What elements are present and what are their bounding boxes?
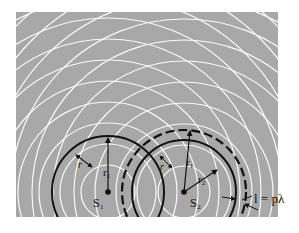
interference-diagram: r₁ S₁ r r₁ r₂ S₂ r l = pλ [0, 0, 299, 233]
s2-label: S₂ [190, 196, 201, 210]
gray-panel [16, 12, 278, 217]
s2-r-label: r [160, 161, 164, 172]
l-equals-p-lambda-label: l = pλ [254, 191, 285, 206]
s1-label: S₁ [93, 196, 104, 210]
s2-source-dot [181, 189, 187, 195]
s1-r-label: r [78, 159, 82, 170]
s2-r2-label: r₂ [198, 173, 206, 185]
s2-r1-label: r₁ [186, 156, 194, 168]
s1-r1-label: r₁ [103, 166, 111, 178]
s1-source-dot [105, 189, 111, 195]
